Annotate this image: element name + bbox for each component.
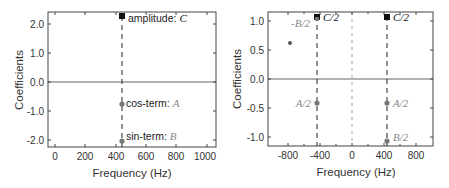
right-ytick-label: 1.0 [250,16,264,27]
left-xtick-label: 800 [168,151,185,162]
left-xtick-label: 1000 [194,151,217,162]
left-ytick-label: 2.0 [30,19,44,30]
sin-term-annotation: sin-term: B [126,130,177,142]
right-xtick-label: 800 [408,150,425,161]
neg-b-half-marker [315,17,320,22]
right-ytick-label: -1.0 [247,132,265,143]
right-ytick-label: -0.5 [247,103,265,114]
b-half-annotation: B/2 [393,131,409,143]
c-half-pos-marker [384,14,390,20]
a-half-neg-marker [314,100,319,105]
right-xtick-label: -800 [278,150,298,161]
c-half-neg-annotation: C/2 [323,11,339,23]
c-half-pos-annotation: C/2 [393,11,409,23]
left-x-axis-title: Frequency (Hz) [92,167,171,179]
left-xtick-label: 400 [108,151,125,162]
a-half-pos-annotation: A/2 [392,97,409,109]
right-ytick-label: 0.0 [250,74,264,85]
right-chart: 1.0 0.5 0.0 -0.5 -1.0 -800 -400 0 400 80… [231,11,433,178]
left-ytick-label: -1.0 [27,106,45,117]
stray-point-marker [288,41,292,45]
left-xtick-label: 600 [138,151,155,162]
left-ytick-label: -2.0 [27,135,45,146]
left-xtick-label: 0 [52,151,58,162]
left-ytick-label: 0.0 [30,77,44,88]
right-xtick-label: -400 [310,150,330,161]
neg-b-half-annotation: -B/2 [291,17,310,29]
b-half-marker [384,138,389,143]
right-ytick-label: 0.5 [250,45,264,56]
left-x-ticks [55,12,207,147]
left-ytick-label: 1.0 [30,48,44,59]
right-xtick-label: 0 [349,150,355,161]
right-xtick-label: 400 [376,150,393,161]
sin-term-marker [119,138,124,143]
a-half-neg-annotation: A/2 [295,97,312,109]
cos-term-annotation: cos-term: A [126,97,180,109]
left-chart: 2.0 1.0 0.0 -1.0 -2.0 0 200 400 600 800 … [13,12,217,179]
cos-term-marker [119,101,124,106]
left-xtick-label: 200 [77,151,94,162]
amplitude-annotation: amplitude: C [128,12,187,24]
figure: 2.0 1.0 0.0 -1.0 -2.0 0 200 400 600 800 … [0,0,449,188]
left-y-axis-title: Coefficients [13,50,25,110]
left-plot-frame [48,12,216,147]
right-x-axis-title: Frequency (Hz) [316,166,395,178]
amplitude-marker [119,13,125,19]
a-half-pos-marker [384,100,389,105]
right-y-axis-title: Coefficients [231,49,243,109]
